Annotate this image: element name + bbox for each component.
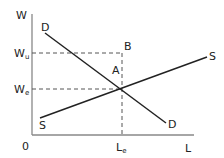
le-tick-label: Le — [116, 141, 126, 155]
supply-curve — [40, 57, 207, 118]
svg-text:Wu: Wu — [14, 47, 29, 61]
x-axis-label: L — [185, 142, 192, 155]
we-tick-label: We — [14, 83, 29, 97]
demand-start-label: D — [41, 21, 49, 34]
svg-text:We: We — [14, 83, 29, 97]
point-a-label: A — [112, 64, 120, 77]
wu-tick-label: Wu — [14, 47, 29, 61]
point-b-label: B — [124, 40, 132, 53]
supply-start-label: S — [39, 119, 46, 132]
labor-market-diagram: W L 0 Wu We Le D D S S A B — [0, 0, 224, 158]
y-axis-label: W — [16, 9, 27, 22]
supply-end-label: S — [209, 50, 216, 63]
demand-end-label: D — [168, 118, 176, 131]
svg-text:Le: Le — [116, 141, 126, 155]
origin-label: 0 — [22, 140, 29, 153]
